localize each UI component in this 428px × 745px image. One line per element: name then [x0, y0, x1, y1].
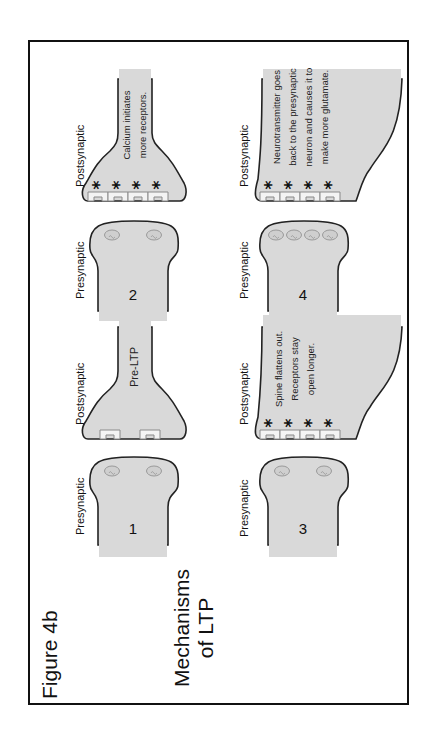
step-number-3: 3: [299, 520, 307, 537]
panel3-caption-line1: Spine flattens out.: [273, 331, 284, 407]
figure-frame: Figure 4b Mechanisms of LTP Presynaptic …: [28, 40, 409, 705]
panel1-postsynaptic-spine: Pre-LTP: [82, 315, 186, 439]
synapse-diagram: * 1 Pre-LTP: [30, 42, 409, 705]
panel3-caption-line2: Receptors stay: [289, 337, 300, 401]
panel4-caption-line4: make more glutamate.: [319, 70, 330, 165]
step-number-2: 2: [129, 286, 137, 303]
panel1-caption: Pre-LTP: [128, 347, 140, 387]
panel1-presynaptic-terminal: 1: [90, 457, 178, 557]
panel2-presynaptic-terminal: 2: [90, 221, 178, 321]
panel2-caption-line2: more receptors.: [137, 92, 148, 159]
panel3-postsynaptic-spine: Spine flattens out. Receptors stay open …: [255, 315, 402, 439]
step-number-1: 1: [129, 520, 137, 537]
figure-canvas-rotated: Figure 4b Mechanisms of LTP Presynaptic …: [30, 42, 409, 705]
panel4-presynaptic-terminal: 4: [260, 221, 348, 321]
panel4-postsynaptic-spine: Neurotransmitter goes back to the presyn…: [255, 68, 402, 201]
panel4-caption-line2: back to the presynaptic: [287, 68, 298, 166]
panel2-postsynaptic-spine: Calcium initiates more receptors.: [82, 69, 186, 201]
panel4-caption-line1: Neurotransmitter goes: [271, 70, 282, 164]
panel4-caption-line3: neuron and causes it to: [303, 68, 314, 167]
panel3-presynaptic-terminal: 3: [260, 457, 348, 557]
panel2-caption-line1: Calcium initiates: [121, 90, 132, 159]
step-number-4: 4: [299, 286, 307, 303]
panel3-caption-line3: open longer.: [305, 343, 316, 395]
